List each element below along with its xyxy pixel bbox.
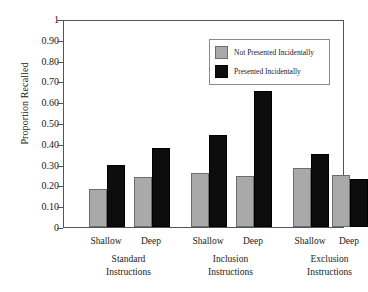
- legend-swatch-presented: [215, 65, 228, 78]
- x-group-label: ExclusionInstructions: [307, 253, 352, 279]
- bar: [311, 154, 329, 227]
- x-tick-label-condition: Deep: [141, 237, 161, 247]
- bar: [152, 148, 170, 227]
- bar: [209, 135, 227, 227]
- x-group-label: StandardInstructions: [106, 253, 151, 279]
- y-tick-label: 0.60: [19, 98, 59, 108]
- bar: [293, 168, 311, 227]
- x-tick-label-condition: Deep: [243, 237, 263, 247]
- y-tick-label: 0.80: [19, 57, 59, 67]
- x-group-label-line1: Standard: [106, 253, 151, 266]
- x-group-label-line2: Instructions: [106, 266, 151, 279]
- x-tick-label-condition: Shallow: [294, 237, 325, 247]
- y-tick-label: 0.90: [19, 36, 59, 46]
- plot-area: Not Presented Incidentally Presented Inc…: [63, 20, 344, 228]
- bar: [332, 175, 350, 227]
- x-tick-label-condition: Shallow: [192, 237, 223, 247]
- x-group-label-line2: Instructions: [208, 266, 253, 279]
- bar: [107, 165, 125, 227]
- bar-chart: Proportion Recalled 10.900.800.700.600.5…: [0, 0, 368, 292]
- x-tick-label-condition: Shallow: [90, 237, 121, 247]
- legend-label-not-presented: Not Presented Incidentally: [234, 49, 314, 57]
- y-tick-label: 0.30: [19, 161, 59, 171]
- x-group-label: InclusionInstructions: [208, 253, 253, 279]
- x-group-label-line1: Inclusion: [208, 253, 253, 266]
- x-tick-label-condition: Deep: [339, 237, 359, 247]
- bar: [350, 179, 368, 227]
- y-tick-mark: [57, 228, 63, 229]
- y-tick-label: 0.40: [19, 140, 59, 150]
- y-tick-label: 0.50: [19, 119, 59, 129]
- bar: [89, 189, 107, 227]
- y-tick-label: 0: [19, 223, 59, 233]
- y-tick-label: 0.70: [19, 77, 59, 87]
- chart-legend: Not Presented Incidentally Presented Inc…: [209, 39, 330, 85]
- y-tick-label: 0.20: [19, 181, 59, 191]
- bar: [236, 176, 254, 227]
- y-tick-label: 0.10: [19, 202, 59, 212]
- legend-swatch-not-presented: [215, 46, 228, 59]
- bar: [254, 91, 272, 227]
- legend-item: Not Presented Incidentally: [215, 45, 325, 60]
- y-tick-label: 1: [19, 15, 59, 25]
- bar: [134, 177, 152, 227]
- x-group-label-line1: Exclusion: [307, 253, 352, 266]
- bar: [191, 173, 209, 227]
- legend-label-presented: Presented Incidentally: [234, 68, 301, 76]
- x-group-label-line2: Instructions: [307, 266, 352, 279]
- legend-item: Presented Incidentally: [215, 64, 325, 79]
